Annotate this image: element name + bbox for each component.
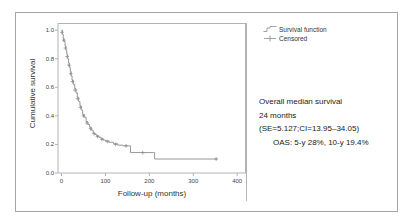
y-axis-tick-label: 0.0 bbox=[34, 170, 54, 176]
x-axis-tick-label: 200 bbox=[139, 178, 159, 184]
y-axis-tick-label: 0.6 bbox=[34, 84, 54, 90]
figure-panel: Cumulative survival Follow-up (months) 0… bbox=[15, 12, 398, 212]
y-axis-tick-label: 0.2 bbox=[34, 141, 54, 147]
annotation-text-block: Overall median survival 24 months (SE=5.… bbox=[259, 95, 397, 149]
x-axis-tick-label: 400 bbox=[227, 178, 247, 184]
x-axis-tick-label: 0 bbox=[52, 178, 72, 184]
x-axis-tick-label: 300 bbox=[183, 178, 203, 184]
step-line-icon bbox=[263, 25, 277, 34]
x-axis-tick-label: 100 bbox=[95, 178, 115, 184]
chart-legend: Survival function Censored bbox=[263, 25, 327, 43]
median-survival-value: 24 months bbox=[259, 109, 397, 123]
overall-survival-rates: OAS: 5-y 28%, 10-y 19.4% bbox=[259, 136, 397, 150]
median-survival-ci: (SE=5.127;CI=13.95–34.05) bbox=[259, 122, 397, 136]
x-axis-label: Follow-up (months) bbox=[58, 189, 246, 198]
legend-item-survival-function: Survival function bbox=[263, 25, 327, 34]
legend-item-censored: Censored bbox=[263, 34, 327, 43]
y-axis-tick-label: 0.4 bbox=[34, 112, 54, 118]
median-survival-title: Overall median survival bbox=[259, 95, 397, 109]
plus-tick-icon bbox=[263, 34, 277, 43]
legend-label: Censored bbox=[279, 34, 307, 43]
y-axis-tick-label: 1.0 bbox=[34, 27, 54, 33]
y-axis-tick-label: 0.8 bbox=[34, 55, 54, 61]
legend-label: Survival function bbox=[279, 25, 327, 34]
